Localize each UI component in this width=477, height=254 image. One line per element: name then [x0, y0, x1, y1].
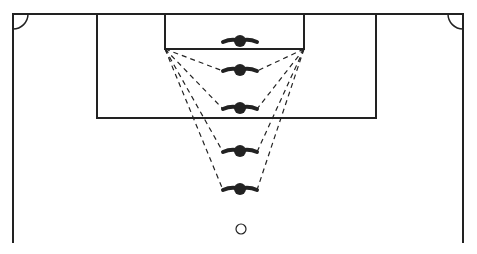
run-path-line	[257, 49, 304, 190]
ball-icon	[236, 224, 246, 234]
pitch-svg	[0, 0, 477, 254]
player-icon	[223, 183, 257, 195]
corner-arc-right	[448, 14, 463, 29]
player-icon	[223, 35, 257, 47]
player-icon	[223, 64, 257, 76]
player-icon	[223, 102, 257, 114]
run-path-line	[165, 49, 223, 152]
run-path-line	[165, 49, 223, 190]
pitch-diagram	[0, 0, 477, 254]
run-path-line	[257, 49, 304, 71]
goal-area	[165, 14, 304, 49]
run-path-line	[165, 49, 223, 71]
corner-arc-left	[13, 14, 28, 29]
player-icon	[223, 145, 257, 157]
